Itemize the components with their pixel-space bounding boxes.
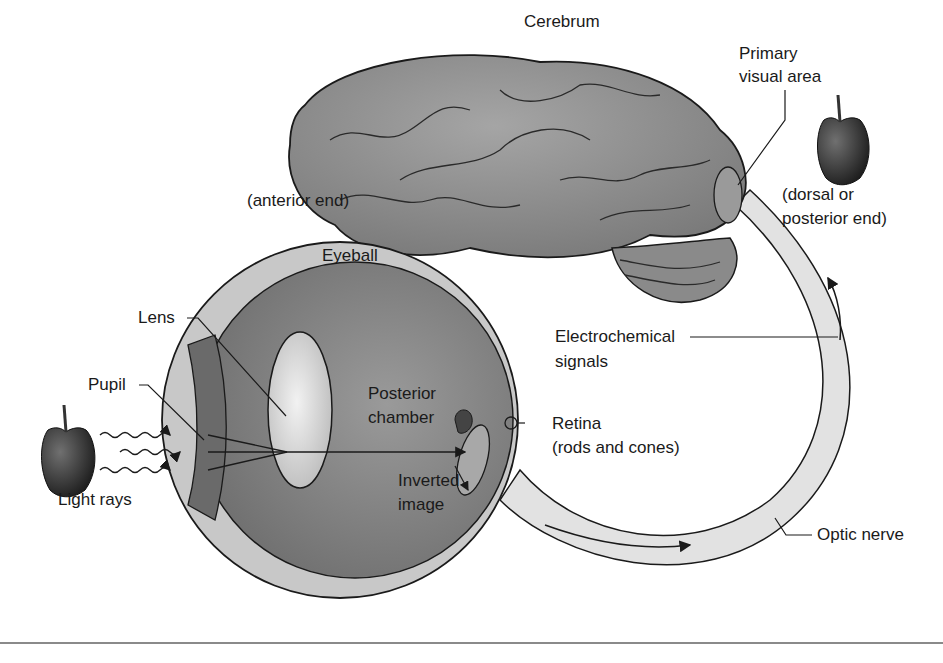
diagram-canvas	[0, 0, 943, 663]
label-primary-visual-area-line2: visual area	[739, 66, 821, 87]
label-posterior-chamber-line1: Posterior	[368, 383, 436, 404]
label-inverted-image-line2: image	[398, 494, 444, 515]
label-dorsal-line2: posterior end)	[782, 208, 887, 229]
apple-object-icon	[42, 405, 95, 497]
label-light-rays: Light rays	[58, 489, 132, 510]
label-posterior-chamber-line2: chamber	[368, 407, 434, 428]
label-optic-nerve: Optic nerve	[817, 524, 904, 545]
label-primary-visual-area-line1: Primary	[739, 43, 798, 64]
label-pupil: Pupil	[88, 374, 126, 395]
label-electrochemical-line2: signals	[555, 351, 608, 372]
label-cerebrum: Cerebrum	[524, 11, 600, 32]
label-eyeball: Eyeball	[322, 245, 378, 266]
apple-perceived-icon	[818, 95, 870, 185]
label-dorsal-line1: (dorsal or	[782, 184, 854, 205]
label-inverted-image-line1: Inverted	[398, 470, 459, 491]
label-retina-line2: (rods and cones)	[552, 437, 680, 458]
label-electrochemical-line1: Electrochemical	[555, 326, 675, 347]
label-anterior-end: (anterior end)	[247, 190, 349, 211]
eyeball-shape	[162, 242, 518, 598]
label-retina-line1: Retina	[552, 413, 601, 434]
label-lens: Lens	[138, 307, 175, 328]
bottom-divider	[0, 642, 943, 644]
